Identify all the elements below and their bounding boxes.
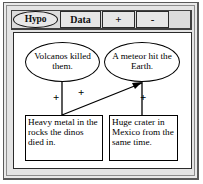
toolbar-button-hypo-label: Hypo (25, 15, 46, 25)
link-sign-heavy-metal-meteor[interactable]: + (78, 87, 84, 98)
hypothesis-node-meteor-label: A meteor hit the Earth. (105, 52, 179, 72)
toolbar-button-minus[interactable]: - (136, 11, 169, 28)
link-sign-meteor-crater[interactable]: + (140, 92, 146, 103)
link-arrowhead-icon (132, 82, 142, 89)
toolbar-button-plus[interactable]: + (102, 11, 135, 28)
toolbar-button-data[interactable]: Data (60, 11, 101, 28)
window-inner-frame: Hypo Data + - (6, 5, 195, 176)
toolbar-button-data-label: Data (70, 15, 91, 25)
data-node-crater-label: Huge crater in Mexico from the same time… (112, 117, 174, 147)
data-node-heavy-metal-label: Heavy metal in the rocks the dinos died … (28, 117, 98, 147)
application-window: Hypo Data + - (3, 2, 199, 180)
hypothesis-node-volcanos-label: Volcanos killed them. (26, 52, 99, 72)
link-heavy-metal-meteor[interactable] (62, 83, 142, 115)
toolbar-button-plus-label: + (115, 14, 121, 25)
link-sign-volcanos-heavy-metal[interactable]: + (53, 92, 59, 103)
hypothesis-node-meteor[interactable]: A meteor hit the Earth. (104, 42, 180, 82)
data-node-heavy-metal[interactable]: Heavy metal in the rocks the dinos died … (25, 115, 103, 161)
diagram-canvas[interactable]: Volcanos killed them. A meteor hit the E… (13, 32, 192, 169)
hypo-oval-shape: Hypo (13, 11, 58, 28)
hypothesis-node-volcanos[interactable]: Volcanos killed them. (25, 42, 100, 82)
data-node-crater[interactable]: Huge crater in Mexico from the same time… (109, 115, 178, 161)
toolbar: Hypo Data + - (11, 10, 192, 30)
toolbar-button-hypo[interactable]: Hypo (12, 11, 59, 28)
toolbar-button-minus-label: - (151, 14, 155, 25)
